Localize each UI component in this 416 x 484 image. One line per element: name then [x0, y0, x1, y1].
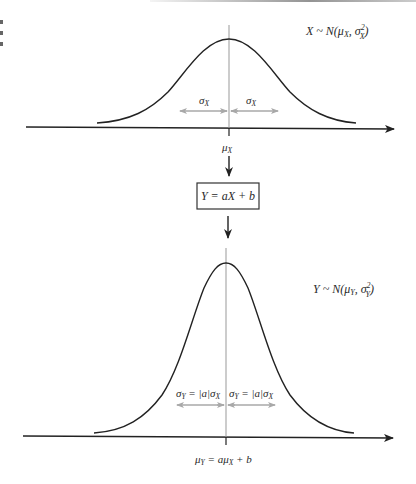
- top-distribution: σX σX μX X ~ N(μX, σ2X): [26, 23, 394, 155]
- bottom-distribution: σY = |a|σX σY = |a|σX μY = aμX + b Y ~ N…: [23, 248, 393, 467]
- bottom-sigma-left-label: σY = |a|σX: [176, 387, 221, 401]
- top-mean-label: μX: [221, 141, 233, 155]
- top-x-axis: [26, 127, 394, 129]
- top-sigma-right-label: σX: [246, 94, 256, 108]
- bottom-sigma-right-label: σY = |a|σX: [229, 387, 274, 401]
- bottom-distribution-label: Y ~ N(μY, σ2Y): [313, 281, 374, 299]
- top-distribution-label: X ~ N(μX, σ2X): [305, 23, 369, 41]
- normal-transform-diagram: σX σX μX X ~ N(μX, σ2X) Y = aX + b: [0, 0, 416, 484]
- bottom-x-axis: [23, 436, 393, 438]
- transform-flow: Y = aX + b: [197, 156, 259, 238]
- transform-box-text: Y = aX + b: [201, 189, 255, 203]
- bottom-mean-label: μY = aμX + b: [194, 453, 252, 467]
- top-sigma-left-label: σX: [199, 94, 209, 108]
